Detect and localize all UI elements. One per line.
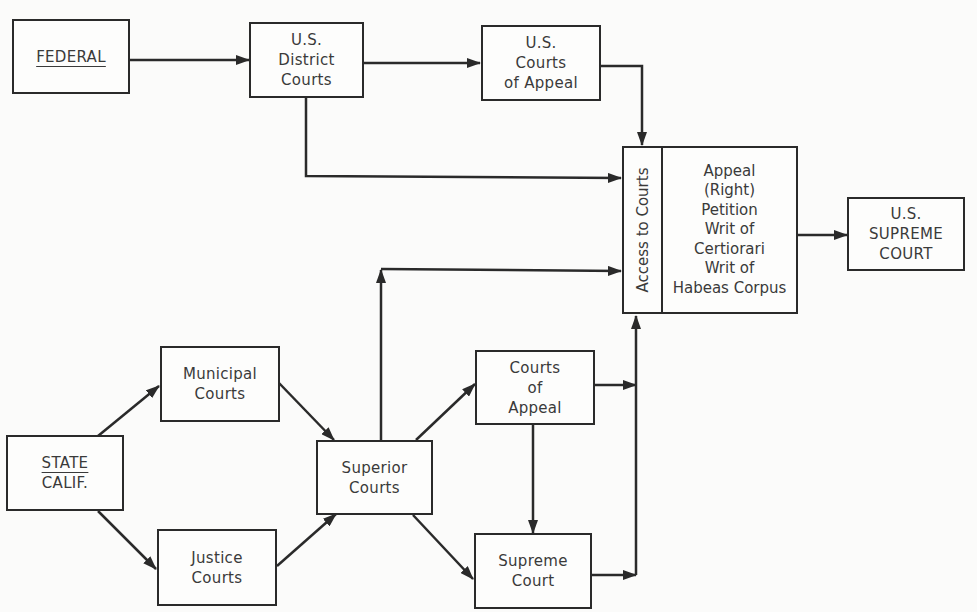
node-supreme-court: Supreme Court: [474, 533, 592, 609]
us-district-line-1: U.S.: [291, 30, 322, 50]
access-line-3: Petition: [701, 201, 758, 221]
arrow-district-to-access: [306, 97, 621, 178]
access-line-2: (Right): [704, 181, 755, 201]
node-us-courts-of-appeal: U.S. Courts of Appeal: [481, 25, 601, 101]
superior-line-2: Courts: [349, 478, 400, 498]
arrow-superior-to-ca-appeal: [416, 384, 475, 440]
us-supreme-line-3: COURT: [879, 244, 932, 264]
arrow-us-appeal-to-access: [601, 66, 642, 145]
justice-line-2: Courts: [192, 568, 243, 588]
ca-appeal-line-1: Courts: [510, 358, 561, 378]
ca-supreme-line-2: Court: [512, 571, 555, 591]
justice-line-1: Justice: [191, 548, 242, 568]
arrow-justice-to-superior: [277, 514, 336, 566]
access-side-label: Access to Courts: [634, 168, 652, 293]
arrow-municipal-to-superior: [279, 383, 334, 440]
arrow-superior-to-ca-supreme: [413, 515, 473, 579]
arrow-state-to-municipal: [98, 386, 159, 436]
node-federal: FEDERAL: [12, 19, 130, 94]
us-supreme-line-2: SUPREME: [869, 224, 943, 244]
us-district-line-3: Courts: [281, 70, 332, 90]
access-methods: Appeal (Right) Petition Writ of Certiora…: [663, 148, 796, 312]
access-line-1: Appeal: [704, 162, 756, 182]
node-access-to-courts: Access to Courts Appeal (Right) Petition…: [622, 146, 798, 314]
access-side-panel: Access to Courts: [624, 148, 663, 312]
ca-supreme-line-1: Supreme: [498, 551, 568, 571]
state-label: STATE: [42, 453, 89, 473]
us-district-line-2: District: [278, 50, 334, 70]
us-appeal-line-2: Courts: [516, 53, 567, 73]
us-appeal-line-1: U.S.: [525, 33, 556, 53]
access-line-5: Certiorari: [694, 240, 765, 260]
ca-appeal-line-3: Appeal: [508, 398, 562, 418]
calif-label: CALIF.: [42, 473, 88, 493]
arrow-superior-to-access: [381, 269, 621, 271]
node-justice-courts: Justice Courts: [157, 529, 277, 606]
federal-label: FEDERAL: [36, 47, 106, 67]
municipal-line-1: Municipal: [183, 364, 257, 384]
access-line-6: Writ of: [705, 259, 755, 279]
court-system-diagram: FEDERAL U.S. District Courts U.S. Courts…: [0, 0, 977, 612]
superior-line-1: Superior: [342, 458, 408, 478]
arrow-state-to-justice: [98, 511, 156, 569]
us-appeal-line-3: of Appeal: [504, 73, 578, 93]
node-us-supreme-court: U.S. SUPREME COURT: [847, 197, 965, 271]
access-line-7: Habeas Corpus: [673, 279, 787, 299]
node-us-district-courts: U.S. District Courts: [249, 22, 364, 98]
node-state-calif: STATE CALIF.: [6, 435, 124, 511]
ca-appeal-line-2: of: [527, 378, 542, 398]
node-courts-of-appeal: Courts of Appeal: [475, 350, 595, 425]
us-supreme-line-1: U.S.: [890, 204, 921, 224]
node-municipal-courts: Municipal Courts: [160, 346, 280, 422]
node-superior-courts: Superior Courts: [316, 440, 433, 515]
access-line-4: Writ of: [705, 220, 755, 240]
municipal-line-2: Courts: [195, 384, 246, 404]
